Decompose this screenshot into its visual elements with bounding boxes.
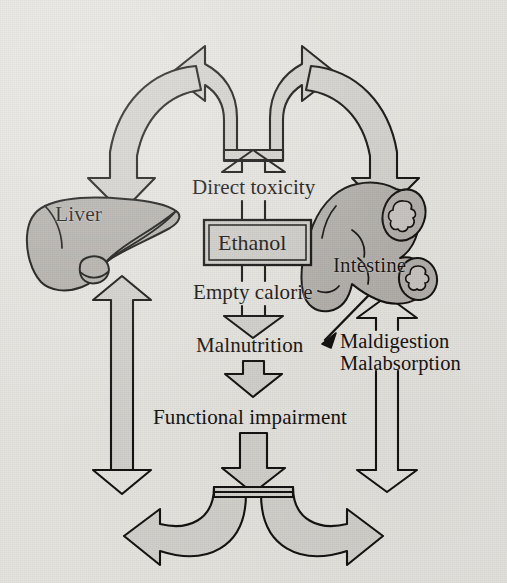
bottom-branching-arrow bbox=[124, 433, 383, 565]
label-liver: Liver bbox=[55, 203, 102, 225]
arrow-left-return-shaft-to-liver bbox=[93, 276, 151, 494]
label-ethanol: Ethanol bbox=[218, 230, 286, 256]
label-direct-toxicity: Direct toxicity bbox=[192, 177, 315, 199]
label-malnutrition: Malnutrition bbox=[196, 335, 303, 357]
arrow-malnutrition-to-functional-impairment bbox=[225, 361, 282, 397]
arrow-to-liver bbox=[88, 66, 201, 212]
figure-canvas: .arw{fill:#d3d1cc;stroke:#161412;stroke-… bbox=[0, 0, 507, 583]
arrow-right-return-shaft-to-intestine bbox=[357, 296, 417, 492]
top-branching-arrow bbox=[170, 46, 337, 161]
label-malabsorption: Malabsorption bbox=[340, 353, 461, 374]
label-maldigestion: Maldigestion bbox=[340, 331, 449, 352]
label-empty-calorie: Empty calorie bbox=[193, 282, 313, 304]
intestine-illustration bbox=[301, 183, 440, 312]
label-functional-impairment: Functional impairment bbox=[153, 407, 347, 429]
label-intestine: Intestine bbox=[333, 255, 406, 277]
liver-illustration bbox=[27, 198, 180, 291]
